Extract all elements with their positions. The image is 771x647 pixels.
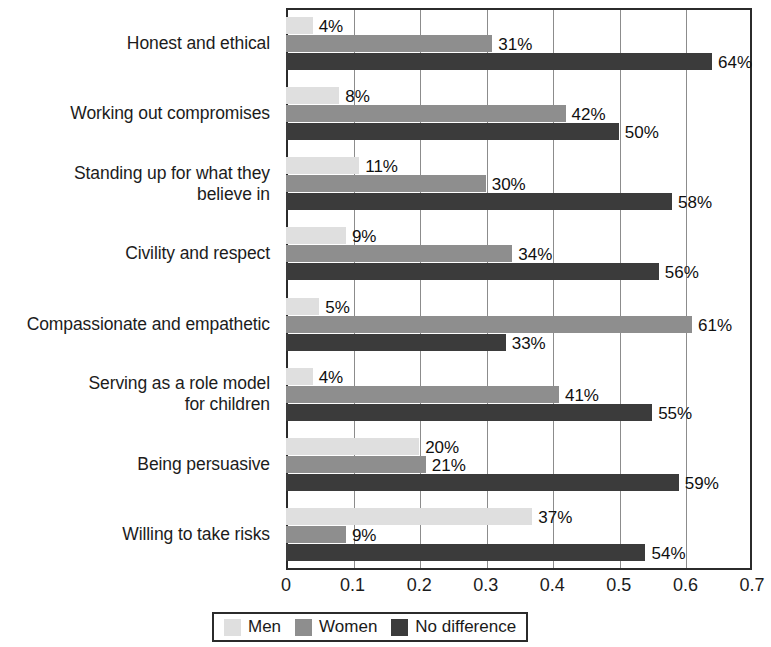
category-axis-labels: Honest and ethicalWorking out compromise… bbox=[0, 8, 278, 570]
legend-label: Men bbox=[248, 618, 281, 636]
gridline bbox=[420, 10, 421, 568]
legend-swatch-icon bbox=[224, 619, 241, 636]
gridline bbox=[553, 10, 554, 568]
category-label: Willing to take risks bbox=[0, 524, 270, 545]
x-tick-label: 0.2 bbox=[407, 574, 432, 596]
gridline bbox=[620, 10, 621, 568]
category-label: Honest and ethical bbox=[0, 33, 270, 54]
x-tick-label: 0 bbox=[281, 574, 291, 596]
gridline bbox=[354, 10, 355, 568]
x-tick-label: 0.5 bbox=[606, 574, 631, 596]
legend-label: Women bbox=[319, 618, 377, 636]
legend-item-men: Men bbox=[224, 618, 281, 636]
category-label: Standing up for what theybelieve in bbox=[0, 163, 270, 205]
legend-item-women: Women bbox=[295, 618, 377, 636]
legend-swatch-icon bbox=[295, 619, 312, 636]
category-label: Serving as a role modelfor children bbox=[0, 373, 270, 415]
x-tick-label: 0.6 bbox=[673, 574, 698, 596]
category-label: Working out compromises bbox=[0, 103, 270, 124]
x-tick-label: 0.4 bbox=[540, 574, 565, 596]
gridline bbox=[487, 10, 488, 568]
gridline bbox=[686, 10, 687, 568]
category-label: Being persuasive bbox=[0, 454, 270, 475]
category-label: Civility and respect bbox=[0, 243, 270, 264]
x-tick-label: 0.1 bbox=[340, 574, 365, 596]
x-tick-label: 0.7 bbox=[739, 574, 764, 596]
legend-swatch-icon bbox=[391, 619, 408, 636]
grouped-bar-chart: Honest and ethicalWorking out compromise… bbox=[0, 0, 771, 647]
x-tick-label: 0.3 bbox=[473, 574, 498, 596]
plot-area bbox=[286, 8, 752, 570]
category-label: Compassionate and empathetic bbox=[0, 314, 270, 335]
legend-label: No difference bbox=[415, 618, 516, 636]
chart-legend: MenWomenNo difference bbox=[212, 612, 528, 642]
legend-item-no-difference: No difference bbox=[391, 618, 516, 636]
x-axis-ticks: 00.10.20.30.40.50.60.7 bbox=[286, 574, 752, 600]
